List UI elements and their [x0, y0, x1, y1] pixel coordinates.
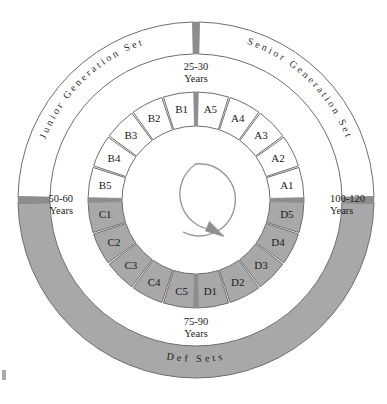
inner-segment-label-B5: B5	[99, 179, 112, 191]
inner-segment-label-B2: B2	[148, 112, 161, 124]
inner-segment-label-A2: A2	[271, 152, 284, 164]
wheel-svg: Junior Generation Set Senior Generation …	[0, 0, 387, 404]
inner-segment-label-D2: D2	[231, 276, 244, 288]
inner-segment-label-D3: D3	[254, 259, 268, 271]
year-label-right-line1: 100-120	[330, 193, 365, 204]
circular-arrow-clockwise-icon	[180, 164, 235, 237]
inner-segment-label-D5: D5	[280, 208, 294, 220]
inner-segment-label-B1: B1	[175, 103, 188, 115]
inner-ring-divider	[194, 274, 199, 308]
inner-segment-label-C5: C5	[175, 285, 188, 297]
inner-segment-label-B4: B4	[108, 152, 121, 164]
inner-segment-label-B3: B3	[124, 129, 137, 141]
outer-ring-divider	[18, 197, 50, 204]
year-label-left-line2: Years	[50, 205, 73, 216]
inner-segment-label-A1: A1	[280, 179, 293, 191]
inner-age-ring	[88, 92, 304, 308]
inner-segment-label-D1: D1	[204, 285, 217, 297]
inner-segment-label-C4: C4	[148, 276, 161, 288]
inner-segment-label-A3: A3	[254, 129, 268, 141]
circular-generation-diagram: Junior Generation Set Senior Generation …	[0, 0, 387, 404]
inner-ring-divider	[88, 198, 122, 203]
year-label-top-line1: 25-30	[184, 61, 209, 72]
outer-ring-divider	[193, 22, 200, 54]
year-label-left-line1: 50-60	[49, 193, 74, 204]
inner-segment-label-C3: C3	[124, 259, 137, 271]
year-label-right-line2: Years	[330, 205, 353, 216]
page-edge-artifact	[2, 370, 6, 380]
inner-segment-label-C1: C1	[99, 208, 112, 220]
inner-segment-label-D4: D4	[271, 236, 285, 248]
inner-ring-divider	[194, 92, 199, 126]
inner-segment-label-A5: A5	[204, 103, 218, 115]
year-label-bottom-line1: 75-90	[184, 316, 209, 327]
inner-segment-label-A4: A4	[231, 112, 245, 124]
segment-label-group: A5A4A3A2A1D5D4D3D2D1C5C4C3C2C1B5B4B3B2B1	[99, 103, 294, 297]
year-label-bottom-line2: Years	[184, 328, 207, 339]
inner-segment-label-C2: C2	[108, 236, 121, 248]
inner-ring-divider	[270, 198, 304, 203]
year-label-top-line2: Years	[184, 73, 207, 84]
